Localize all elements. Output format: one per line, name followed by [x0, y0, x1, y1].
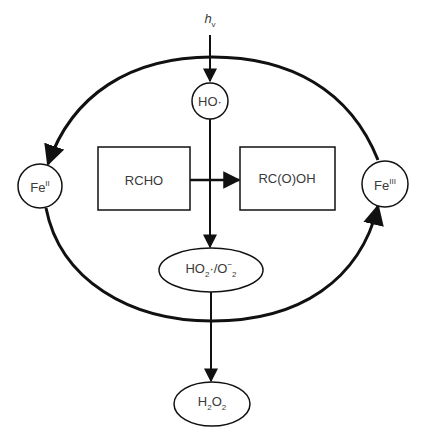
peroxide-s2: 2 — [222, 403, 226, 412]
superoxide-s2: 2 — [232, 270, 236, 279]
label-peroxide: H2O2 — [198, 395, 226, 412]
fe3-oxidation: III — [389, 177, 396, 186]
reaction-cycle-diagram — [0, 0, 429, 440]
superoxide-p2: ·/O — [209, 261, 227, 276]
hv-subscript: v — [212, 20, 216, 29]
hydroxyl-text: HO — [198, 94, 218, 109]
label-hydroxyl: HO· — [198, 95, 222, 108]
peroxide-p1: H — [198, 394, 207, 409]
superoxide-p1: HO — [185, 261, 205, 276]
label-fe3: FeIII — [374, 178, 396, 192]
label-hv: hv — [204, 12, 215, 29]
hydroxyl-dot: · — [218, 94, 222, 109]
label-fe2: FeII — [30, 180, 50, 194]
label-superoxide: HO2·/O−2 — [185, 261, 236, 279]
fe3-text: Fe — [374, 178, 389, 193]
fe2-text: Fe — [30, 180, 45, 195]
peroxide-p2: O — [212, 394, 222, 409]
label-acid: RC(O)OH — [258, 172, 315, 185]
fe2-oxidation: II — [45, 179, 49, 188]
superoxide-charge: − — [227, 260, 232, 269]
label-aldehyde: RCHO — [125, 174, 163, 187]
